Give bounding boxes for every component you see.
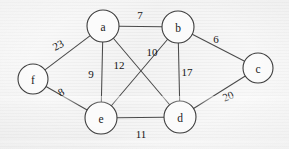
graph-diagram-canvas: abcdef 7239126171020118 xyxy=(0,0,289,149)
edge-weight-d-e: 11 xyxy=(136,128,147,140)
node-a[interactable]: a xyxy=(87,10,119,42)
node-d[interactable]: d xyxy=(164,101,196,133)
edge-e-f xyxy=(46,86,87,110)
node-label-d: d xyxy=(177,112,183,124)
edge-weight-e-f: 8 xyxy=(56,85,67,98)
node-e[interactable]: e xyxy=(85,102,117,134)
node-label-e: e xyxy=(98,113,103,125)
node-c[interactable]: c xyxy=(243,53,273,83)
edge-weight-b-c: 6 xyxy=(213,33,219,45)
edge-b-e xyxy=(111,39,167,106)
nodes-layer: abcdef xyxy=(18,10,273,134)
edge-b-d xyxy=(178,43,179,101)
edge-weight-a-d: 12 xyxy=(114,59,125,71)
edge-d-e xyxy=(117,117,164,118)
node-b[interactable]: b xyxy=(162,11,194,43)
edge-weight-a-b: 7 xyxy=(137,9,143,21)
edge-a-d xyxy=(113,38,169,105)
node-label-c: c xyxy=(255,63,260,75)
node-label-a: a xyxy=(100,21,105,33)
edge-a-e xyxy=(101,42,102,102)
edge-c-d xyxy=(194,76,246,109)
edge-weight-b-e: 10 xyxy=(147,46,159,58)
edge-a-b xyxy=(119,26,162,27)
edge-weight-b-d: 17 xyxy=(182,66,194,78)
graph-svg: abcdef 7239126171020118 xyxy=(0,0,289,149)
node-f[interactable]: f xyxy=(18,64,48,94)
edge-weight-a-e: 9 xyxy=(88,68,94,80)
node-label-f: f xyxy=(31,74,35,86)
edge-weights-layer: 7239126171020118 xyxy=(50,9,235,140)
node-label-b: b xyxy=(175,22,181,34)
edge-weight-a-f: 23 xyxy=(50,37,66,53)
